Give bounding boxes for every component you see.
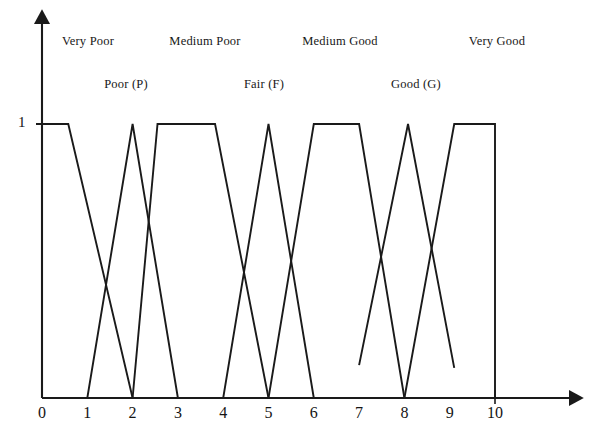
x-axis-tick-label-6: 6 — [310, 404, 318, 422]
membership-function-curves — [42, 124, 495, 398]
x-axis-tick-label-7: 7 — [355, 404, 363, 422]
term-label-fair: Fair (F) — [244, 77, 284, 92]
term-label-medium-poor: Medium Poor — [169, 34, 240, 49]
x-axis-tick-label-1: 1 — [83, 404, 91, 422]
y-axis-tick-label-1: 1 — [18, 114, 26, 131]
membership-curve-medium-good — [269, 124, 405, 398]
term-label-very-poor: Very Poor — [62, 34, 114, 49]
x-axis-tick-label-10: 10 — [487, 404, 503, 422]
x-axis-tick-label-8: 8 — [400, 404, 408, 422]
term-label-very-good: Very Good — [469, 34, 525, 49]
x-axis-tick-label-9: 9 — [446, 404, 454, 422]
term-label-medium-good: Medium Good — [302, 34, 377, 49]
membership-curve-good-g — [359, 124, 454, 368]
fuzzy-membership-chart: 1 Very Poor Medium Poor Medium Good Very… — [0, 0, 605, 439]
membership-curve-very-good — [404, 124, 495, 398]
x-axis-tick-label-3: 3 — [174, 404, 182, 422]
x-axis-tick-label-4: 4 — [219, 404, 227, 422]
x-axis-tick-label-2: 2 — [129, 404, 137, 422]
x-axis-tick-label-0: 0 — [38, 404, 46, 422]
term-label-poor: Poor (P) — [104, 77, 148, 92]
membership-curve-medium-poor — [133, 124, 269, 398]
x-axis-tick-label-5: 5 — [265, 404, 273, 422]
chart-canvas — [0, 0, 605, 439]
membership-curve-fair-f — [223, 124, 314, 398]
membership-curve-very-poor — [42, 124, 133, 398]
term-label-good: Good (G) — [391, 77, 441, 92]
